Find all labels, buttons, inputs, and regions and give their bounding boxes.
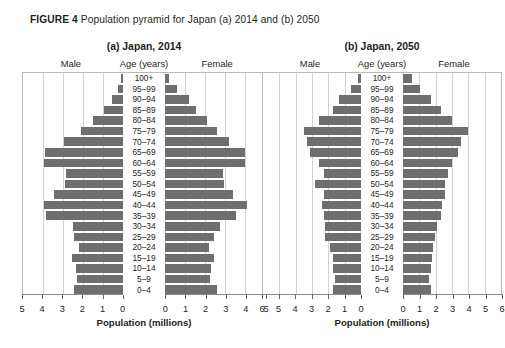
bar-male — [325, 222, 361, 231]
bar-female — [165, 127, 217, 136]
pyramid-row: 25–29 — [23, 232, 265, 243]
bar-male — [322, 201, 361, 210]
bar-female — [165, 85, 177, 94]
bar-male — [315, 180, 362, 189]
bar-female — [403, 85, 420, 94]
axis-tick — [295, 294, 296, 299]
age-group-label: 70–74 — [123, 136, 165, 147]
age-group-label: 35–39 — [123, 210, 165, 221]
bar-male — [324, 211, 362, 220]
pyramid-row: 5–9 — [23, 274, 265, 285]
age-group-label: 65–69 — [361, 147, 403, 158]
bar-female — [403, 148, 458, 157]
age-group-label: 80–84 — [123, 115, 165, 126]
bar-female — [165, 169, 223, 178]
axis-tick — [262, 294, 263, 299]
bar-male — [310, 148, 362, 157]
bar-female — [403, 190, 445, 199]
bar-male — [319, 116, 362, 125]
figure-caption: FIGURE 4 Population pyramid for Japan (a… — [30, 14, 320, 25]
bar-female — [403, 127, 468, 136]
bar-female — [165, 148, 245, 157]
pyramid-row: 20–24 — [23, 242, 265, 253]
axis-tick — [103, 294, 104, 299]
bar-female — [165, 275, 210, 284]
bar-female — [403, 285, 432, 294]
pyramid-row: 65–69 — [263, 147, 501, 158]
pyramid-row: 75–79 — [23, 126, 265, 137]
bar-male — [333, 264, 361, 273]
bar-male — [74, 233, 123, 242]
x-axis-ticks-2050 — [262, 294, 502, 303]
pyramid-row: 95–99 — [23, 84, 265, 95]
axis-tick — [226, 294, 227, 299]
bar-male — [79, 243, 123, 252]
pyramid-row: 35–39 — [263, 210, 501, 221]
pyramid-row: 15–19 — [263, 253, 501, 264]
pyramid-row: 90–94 — [23, 94, 265, 105]
bar-female — [165, 264, 211, 273]
panel-japan-2050: (b) Japan, 2050 Male Age (years) Female … — [262, 40, 502, 340]
age-group-label: 85–89 — [361, 105, 403, 116]
axis-tick — [62, 294, 63, 299]
age-group-label: 95–99 — [361, 84, 403, 95]
age-group-label: 75–79 — [123, 126, 165, 137]
axis-tick — [345, 294, 346, 299]
bar-female — [165, 116, 207, 125]
pyramid-row: 55–59 — [263, 168, 501, 179]
age-group-label: 65–69 — [123, 147, 165, 158]
pyramid-row: 25–29 — [263, 232, 501, 243]
bar-male — [325, 233, 361, 242]
bar-female — [165, 254, 214, 263]
axis-tick — [82, 294, 83, 299]
age-group-label: 70–74 — [361, 136, 403, 147]
age-group-label: 90–94 — [123, 94, 165, 105]
bar-male — [307, 137, 361, 146]
axis-tick — [22, 294, 23, 299]
axis-tick — [328, 294, 329, 299]
bar-male — [72, 254, 123, 263]
axis-tick-label: 2 — [80, 303, 85, 316]
age-group-label: 10–14 — [361, 263, 403, 274]
bar-female — [403, 95, 431, 104]
axis-tick-label: 4 — [243, 303, 248, 316]
bar-male — [330, 243, 361, 252]
bar-female — [165, 95, 189, 104]
x-axis-labels-2014: 543210012345 — [22, 303, 266, 316]
pyramid-row: 50–54 — [263, 179, 501, 190]
bar-female — [403, 222, 437, 231]
pyramid-row: 60–64 — [23, 158, 265, 169]
pyramid-row: 90–94 — [263, 94, 501, 105]
age-group-label: 85–89 — [123, 105, 165, 116]
bar-female — [165, 190, 233, 199]
panel-title-2050: (b) Japan, 2050 — [262, 40, 502, 54]
bar-female — [403, 264, 432, 273]
heading-female-2050: Female — [406, 56, 502, 72]
pyramid-row: 5–9 — [263, 274, 501, 285]
age-group-label: 55–59 — [361, 168, 403, 179]
panel-title-2014: (a) Japan, 2014 — [22, 40, 266, 54]
age-group-label: 15–19 — [361, 253, 403, 264]
bar-male — [351, 85, 361, 94]
bar-male — [77, 275, 123, 284]
bar-male — [44, 201, 123, 210]
bar-female — [403, 74, 412, 83]
age-group-label: 80–84 — [361, 115, 403, 126]
age-group-label: 55–59 — [123, 168, 165, 179]
age-group-label: 0–4 — [123, 284, 165, 295]
pyramid-row: 45–49 — [263, 189, 501, 200]
axis-tick — [312, 294, 313, 299]
pyramid-row: 55–59 — [23, 168, 265, 179]
pyramid-row: 50–54 — [23, 179, 265, 190]
bar-female — [165, 222, 220, 231]
panel-japan-2014: (a) Japan, 2014 Male Age (years) Female … — [22, 40, 266, 340]
bar-male — [66, 169, 123, 178]
axis-tick-label: 1 — [183, 303, 188, 316]
axis-tick-label: 3 — [309, 303, 314, 316]
bar-male — [324, 169, 362, 178]
axis-tick-label: 4 — [40, 303, 45, 316]
axis-tick-label: 6 — [259, 303, 264, 316]
axis-tick — [42, 294, 43, 299]
axis-tick-label: 5 — [276, 303, 281, 316]
